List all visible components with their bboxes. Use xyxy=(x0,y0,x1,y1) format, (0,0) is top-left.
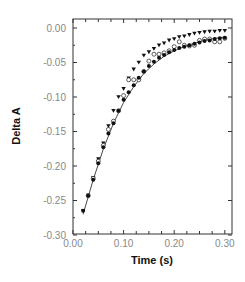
filled-circle-point xyxy=(203,39,207,43)
filled-circle-point xyxy=(198,40,202,44)
y-tick-labels: 0.00-0.05-0.10-0.15-0.20-0.25-0.30 xyxy=(43,23,66,241)
filled-circle-point xyxy=(218,36,222,40)
triangle-point xyxy=(162,41,166,45)
x-tick-label: 0.20 xyxy=(164,238,184,249)
y-tick-label: 0.00 xyxy=(47,23,67,34)
ticks xyxy=(73,19,232,235)
open-circle-point xyxy=(152,52,156,56)
filled-circle-point xyxy=(213,37,217,41)
triangle-point xyxy=(167,39,171,43)
open-circle-point xyxy=(218,40,222,44)
x-tick-labels: 0.000.100.200.30 xyxy=(63,238,235,249)
triangle-point xyxy=(218,29,222,33)
filled-circle-point xyxy=(111,121,115,125)
open-circle-point xyxy=(177,40,181,44)
triangle-point xyxy=(137,61,141,65)
triangle-point xyxy=(177,35,181,39)
filled-circle-point xyxy=(127,90,131,94)
open-circle-point xyxy=(132,78,136,82)
filled-circle-point xyxy=(157,56,161,60)
triangle-point xyxy=(116,95,120,99)
filled-circle-point xyxy=(86,194,90,198)
triangle-point xyxy=(202,30,206,34)
x-axis-title: Time (s) xyxy=(131,254,173,266)
x-tick-label: 0.00 xyxy=(63,238,83,249)
triangle-point xyxy=(212,30,216,34)
data-points xyxy=(81,29,227,213)
plot-frame xyxy=(73,19,232,234)
y-axis-title: Delta A xyxy=(10,107,22,145)
triangle-point xyxy=(147,50,151,54)
filled-circle-point xyxy=(172,48,176,52)
y-tick-label: -0.25 xyxy=(43,195,66,206)
y-tick-label: -0.15 xyxy=(43,126,66,137)
filled-circle-point xyxy=(137,76,141,80)
triangle-point xyxy=(223,29,227,33)
open-circle-point xyxy=(106,127,110,131)
y-tick-label: -0.10 xyxy=(43,92,66,103)
triangle-point xyxy=(172,37,176,41)
filled-circle-point xyxy=(122,98,126,102)
filled-circle-point xyxy=(132,83,136,87)
triangle-point xyxy=(192,32,196,36)
open-circle-point xyxy=(127,78,131,82)
filled-circle-point xyxy=(81,209,85,213)
triangle-point xyxy=(157,43,161,47)
filled-circle-point xyxy=(117,109,121,113)
filled-circle-point xyxy=(101,145,105,149)
filled-circle-point xyxy=(167,50,171,54)
triangle-point xyxy=(187,33,191,37)
triangle-point xyxy=(132,68,136,72)
filled-circle-point xyxy=(177,46,181,50)
triangle-point xyxy=(197,31,201,35)
open-circle-point xyxy=(172,45,176,49)
filled-circle-point xyxy=(96,161,100,165)
chart: 0.00-0.05-0.10-0.15-0.20-0.25-0.30 0.000… xyxy=(0,0,245,282)
filled-circle-point xyxy=(147,64,151,68)
filled-circle-point xyxy=(223,36,227,40)
triangle-point xyxy=(152,47,156,51)
open-circle-point xyxy=(147,59,151,63)
filled-circle-point xyxy=(91,178,95,182)
filled-circle-point xyxy=(192,42,196,46)
filled-circle-point xyxy=(106,132,110,136)
triangle-point xyxy=(142,54,146,58)
y-tick-label: -0.20 xyxy=(43,161,66,172)
filled-circle-point xyxy=(187,43,191,47)
filled-circle-point xyxy=(182,45,186,49)
filled-circle-point xyxy=(208,38,212,42)
filled-circle-point xyxy=(162,53,166,57)
open-circle-point xyxy=(157,52,161,56)
open-circle-point xyxy=(122,94,126,98)
triangle-point xyxy=(111,109,115,113)
x-tick-label: 0.10 xyxy=(114,238,134,249)
triangle-point xyxy=(121,87,125,91)
triangle-point xyxy=(182,34,186,38)
filled-circle-point xyxy=(142,69,146,73)
triangle-point xyxy=(207,30,211,34)
y-tick-label: -0.05 xyxy=(43,57,66,68)
x-tick-label: 0.30 xyxy=(215,238,235,249)
filled-circle-point xyxy=(152,60,156,64)
